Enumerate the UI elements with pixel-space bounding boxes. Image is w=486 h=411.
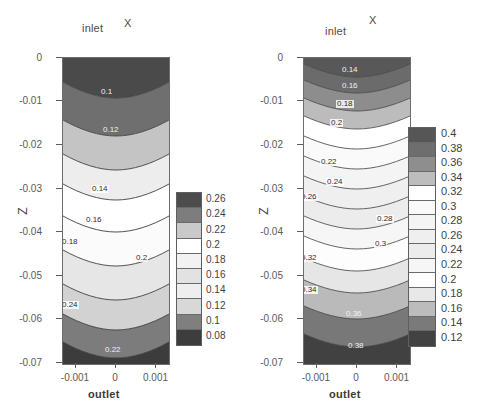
contour-panel-left: inlet X Z 0 -0.01 -0.02 -0.03 -0.04 -0.0… <box>0 0 243 411</box>
contour-figure: inlet X Z 0 -0.01 -0.02 -0.03 -0.04 -0.0… <box>0 0 486 411</box>
colorbar-swatch <box>409 331 435 346</box>
colorbar-swatch <box>177 193 201 208</box>
colorbar-tick-label: 0.16 <box>206 270 225 280</box>
colorbar-left <box>176 192 202 346</box>
inlet-label-right: inlet <box>325 25 346 37</box>
colorbar-swatch <box>409 157 435 172</box>
y-axis-name-left: Z <box>16 204 30 218</box>
colorbar-tick-label: 0.22 <box>206 225 225 235</box>
colorbar-tick-label: 0.36 <box>441 157 462 168</box>
contour-label: 0.38 <box>348 342 364 350</box>
contour-plot-area-right: 0.14 0.16 0.18 0.2 0.22 0.24 0.26 0.28 0… <box>303 57 411 365</box>
inlet-label-left: inlet <box>82 22 103 34</box>
contour-label: 0.3 <box>374 240 387 248</box>
contour-label: 0.24 <box>326 178 344 186</box>
contour-label: 0.18 <box>62 238 79 246</box>
colorbar-swatch <box>177 269 201 284</box>
ytick-label: 0 <box>6 52 42 63</box>
x-axis-name-right: X <box>369 14 376 26</box>
colorbar-swatch <box>409 186 435 201</box>
colorbar-swatch <box>177 299 201 314</box>
ytick-label: -0.03 <box>247 183 283 194</box>
ytick-label: -0.03 <box>6 183 42 194</box>
colorbar-tick-label: 0.12 <box>441 332 462 343</box>
colorbar-tick-label: 0.3 <box>441 201 456 212</box>
contour-label: 0.18 <box>336 100 354 108</box>
colorbar-tick-label: 0.32 <box>441 186 462 197</box>
colorbar-swatch <box>177 330 201 345</box>
colorbar-swatch <box>409 172 435 187</box>
colorbar-tick-label: 0.34 <box>441 172 462 183</box>
x-axis-name-left: X <box>124 17 131 29</box>
colorbar-tick-label: 0.26 <box>441 230 462 241</box>
colorbar-tick-label: 0.16 <box>441 303 462 314</box>
colorbar-swatch <box>409 244 435 259</box>
colorbar-swatch <box>177 208 201 223</box>
colorbar-tick-label: 0.12 <box>206 301 225 311</box>
contour-label: 0.16 <box>85 216 103 224</box>
contour-label: 0.2 <box>330 119 343 127</box>
contour-label: 0.14 <box>91 185 109 193</box>
ytick-label: -0.06 <box>6 313 42 324</box>
colorbar-swatch <box>177 239 201 254</box>
contour-label: 0.24 <box>62 301 79 309</box>
colorbar-swatch <box>177 284 201 299</box>
ytick-label: -0.05 <box>6 270 42 281</box>
contour-label: 0.22 <box>105 346 121 354</box>
xtick-mark <box>75 363 76 368</box>
colorbar-swatch <box>177 254 201 269</box>
outlet-label-right: outlet <box>329 388 361 400</box>
colorbar-swatch <box>409 230 435 245</box>
y-axis-name-right: Z <box>257 204 271 218</box>
colorbar-tick-label: 0.2 <box>206 240 220 250</box>
contour-label: 0.32 <box>303 254 318 262</box>
xtick-mark <box>155 363 156 368</box>
ytick-label: -0.04 <box>6 226 42 237</box>
xtick-label: 0.001 <box>128 372 183 383</box>
contour-label: 0.12 <box>103 126 119 134</box>
contour-label: 0.14 <box>342 66 358 74</box>
contour-svg-right <box>304 58 410 364</box>
contour-label: 0.2 <box>135 254 148 262</box>
ytick-label: -0.04 <box>247 226 283 237</box>
colorbar-tick-label: 0.38 <box>441 143 462 154</box>
colorbar-tick-label: 0.14 <box>206 285 225 295</box>
colorbar-tick-label: 0.22 <box>441 259 462 270</box>
ytick-label: -0.01 <box>247 95 283 106</box>
colorbar-swatch <box>409 273 435 288</box>
xtick-mark <box>316 363 317 368</box>
colorbar-tick-label: 0.18 <box>441 288 462 299</box>
contour-label: 0.28 <box>376 215 394 223</box>
colorbar-tick-label: 0.08 <box>206 331 225 341</box>
colorbar-swatch <box>409 302 435 317</box>
xtick-mark <box>115 363 116 368</box>
contour-label: 0.16 <box>342 82 358 90</box>
xtick-mark <box>396 363 397 368</box>
ytick-label: -0.02 <box>6 139 42 150</box>
colorbar-swatch <box>409 128 435 143</box>
colorbar-tick-label: 0.28 <box>441 215 462 226</box>
outlet-label-left: outlet <box>88 388 120 400</box>
xtick-label: 0.001 <box>369 372 424 383</box>
colorbar-tick-label: 0.14 <box>441 317 462 328</box>
colorbar-tick-label: 0.4 <box>441 128 456 139</box>
colorbar-tick-label: 0.2 <box>441 274 456 285</box>
colorbar-tick-label: 0.26 <box>206 194 225 204</box>
colorbar-swatch <box>177 315 201 330</box>
ytick-label: 0 <box>247 52 283 63</box>
ytick-label: -0.07 <box>247 357 283 368</box>
colorbar-tick-label: 0.1 <box>206 316 220 326</box>
contour-panel-right: inlet X Z 0 -0.01 -0.02 -0.03 -0.04 -0.0… <box>243 0 486 411</box>
contour-plot-area-left: 0.1 0.12 0.14 0.16 0.18 0.2 0.24 0.22 <box>62 57 170 365</box>
colorbar-tick-label: 0.24 <box>206 209 225 219</box>
colorbar-tick-label: 0.24 <box>441 244 462 255</box>
colorbar-swatch <box>409 317 435 332</box>
contour-label: 0.22 <box>320 158 338 166</box>
colorbar-swatch <box>409 215 435 230</box>
xtick-mark <box>356 363 357 368</box>
contour-label: 0.36 <box>346 310 362 318</box>
contour-label: 0.34 <box>303 286 318 294</box>
ytick-label: -0.01 <box>6 95 42 106</box>
colorbar-swatch <box>409 288 435 303</box>
colorbar-swatch <box>409 143 435 158</box>
